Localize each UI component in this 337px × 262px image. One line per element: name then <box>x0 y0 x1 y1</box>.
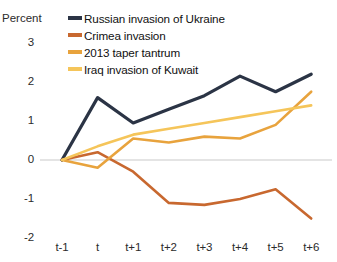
legend-swatch <box>68 50 82 53</box>
legend-label: Iraq invasion of Kuwait <box>84 63 198 76</box>
legend-item: Crimea invasion <box>68 27 225 43</box>
legend-swatch <box>68 33 82 36</box>
legend-item: 2013 taper tantrum <box>68 44 225 60</box>
legend-item: Iraq invasion of Kuwait <box>68 61 225 77</box>
legend-item: Russian invasion of Ukraine <box>68 10 225 26</box>
legend-swatch <box>68 16 82 20</box>
line-chart: Percent 3210-1-2 t-1tt+1t+2t+3t+4t+5t+6 … <box>0 0 337 262</box>
legend-label: Russian invasion of Ukraine <box>84 12 225 25</box>
legend-swatch <box>68 67 82 70</box>
legend-label: Crimea invasion <box>84 29 166 42</box>
legend-label: 2013 taper tantrum <box>84 46 180 59</box>
series-lines <box>62 74 311 218</box>
legend: Russian invasion of UkraineCrimea invasi… <box>68 10 225 77</box>
series-line <box>62 152 311 218</box>
